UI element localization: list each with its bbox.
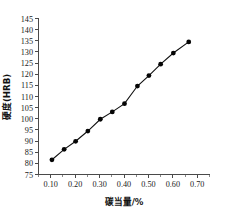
y-tick-label: 95 — [25, 126, 33, 135]
data-point — [147, 73, 152, 78]
y-tick-label: 115 — [21, 81, 33, 90]
y-tick-label: 140 — [21, 26, 33, 35]
y-tick-label: 135 — [21, 37, 33, 46]
y-tick-label: 85 — [25, 148, 33, 157]
chart-canvas: 1451401351301251201151101051009590858075… — [0, 0, 229, 211]
x-tick-label: 0.50 — [141, 180, 155, 189]
data-point — [135, 84, 140, 89]
x-tick-label: 0.60 — [166, 180, 180, 189]
x-axis-tick-labels: 0.100.200.300.400.500.600.70 — [44, 180, 205, 189]
y-tick-label: 130 — [21, 48, 33, 57]
y-axis-title: 硬度(HRB) — [1, 74, 12, 120]
y-axis-tick-labels: 1451401351301251201151101051009590858075 — [21, 15, 33, 180]
data-point — [85, 129, 90, 134]
data-point — [98, 117, 103, 122]
y-tick-label: 125 — [21, 59, 33, 68]
hardness-vs-carbon-equivalent-chart: 1451401351301251201151101051009590858075… — [0, 0, 229, 211]
data-point — [62, 147, 67, 152]
y-tick-label: 105 — [21, 104, 33, 113]
data-point — [171, 51, 176, 56]
data-point — [186, 40, 191, 45]
x-tick-label: 0.10 — [44, 180, 58, 189]
data-point — [158, 62, 163, 67]
x-axis-ticks — [39, 175, 210, 179]
y-axis-ticks — [35, 19, 39, 175]
x-tick-label: 0.70 — [190, 180, 204, 189]
x-tick-label: 0.40 — [117, 180, 131, 189]
data-point — [110, 109, 115, 114]
data-point — [73, 139, 78, 144]
y-tick-label: 100 — [21, 115, 33, 124]
y-tick-label: 90 — [25, 137, 33, 146]
y-tick-label: 145 — [21, 15, 33, 24]
data-series-line — [52, 42, 189, 160]
data-point — [50, 157, 55, 162]
x-tick-label: 0.30 — [92, 180, 106, 189]
x-tick-label: 0.20 — [68, 180, 82, 189]
y-tick-label: 80 — [25, 159, 33, 168]
x-axis-title: 碳当量/% — [105, 196, 144, 207]
y-tick-label: 120 — [21, 70, 33, 79]
y-tick-label: 110 — [21, 93, 33, 102]
y-tick-label: 75 — [25, 171, 33, 180]
data-series-markers — [50, 40, 192, 163]
data-point — [122, 101, 127, 106]
